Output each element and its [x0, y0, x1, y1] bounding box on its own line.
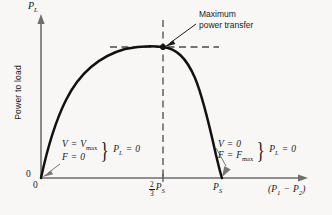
tick-label-ps: PS	[213, 183, 222, 195]
maximum-power-transfer-callout: Maximum power transfer	[199, 9, 253, 30]
right-result-equals: =	[279, 144, 291, 154]
maximum-power-point-marker	[160, 44, 166, 50]
max-power-transfer-figure: PL Power to load 0 0 (P1−P2) 23PS PS Max…	[0, 0, 332, 215]
right-result-rhs: 0	[291, 144, 296, 154]
left-result-equals: =	[123, 144, 135, 154]
x-axis-label: (P1−P2)	[268, 185, 305, 197]
left-condition-equations: V=Vmax F=0	[62, 139, 97, 163]
right-eq2-rhs-subscript: max	[242, 155, 253, 162]
left-condition-result: PL=0	[112, 145, 140, 157]
left-eq1-lhs: V	[62, 139, 68, 149]
right-eq1-lhs: V	[218, 139, 224, 149]
y-axis-top-symbol: PL	[28, 1, 38, 14]
x-axis-label-close-paren: )	[302, 184, 305, 194]
figure-canvas	[0, 0, 332, 215]
x-axis	[41, 174, 308, 181]
left-eq2-equals: =	[68, 152, 80, 162]
left-eq2-rhs: 0	[80, 152, 85, 162]
callout-line-1: Maximum	[199, 9, 253, 20]
left-zero-power-condition: V=Vmax F=0 } PL=0	[62, 139, 140, 163]
tick-label-ps-symbol: PS	[155, 183, 165, 195]
x-axis-label-minus: −	[280, 184, 292, 194]
right-zero-power-condition: V=0 F=Fmax } PL=0	[218, 139, 296, 163]
left-condition-brace: }	[99, 141, 110, 161]
left-eq2-lhs: F	[62, 152, 68, 162]
x-origin-label: 0	[33, 181, 38, 191]
callout-arrow-maximum	[164, 24, 196, 47]
right-eq1-rhs: 0	[236, 139, 241, 149]
callout-line-2: power transfer	[199, 20, 253, 31]
left-eq1-rhs-subscript: max	[86, 144, 97, 151]
y-axis	[37, 14, 44, 178]
right-condition-brace: }	[255, 141, 266, 161]
tick-ps-subscript: S	[162, 187, 166, 195]
right-eq2-lhs: F	[218, 150, 224, 160]
right-condition-equations: V=0 F=Fmax	[218, 139, 253, 163]
left-condition-eq-force: F=0	[62, 152, 97, 163]
y-axis-label: Power to load	[14, 52, 23, 132]
right-eq1-equals: =	[224, 139, 236, 149]
left-condition-eq-voltage: V=Vmax	[62, 139, 97, 152]
y-origin-label: 0	[26, 170, 31, 180]
right-condition-result: PL=0	[268, 145, 296, 157]
tick-label-two-thirds-ps: 23PS	[149, 181, 165, 197]
right-condition-eq-voltage: V=0	[218, 139, 253, 150]
left-result-rhs: 0	[135, 144, 140, 154]
right-eq2-equals: =	[224, 150, 236, 160]
y-axis-top-subscript: L	[34, 6, 38, 14]
tick-label-ps-sub: S	[219, 187, 223, 195]
left-eq1-equals: =	[68, 139, 80, 149]
right-condition-eq-force: F=Fmax	[218, 150, 253, 163]
